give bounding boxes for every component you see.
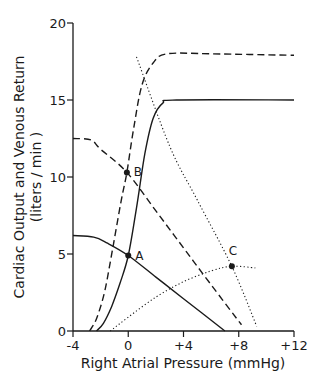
series-line-1 (90, 53, 294, 331)
point-label-b: B (134, 165, 142, 179)
chart: -40+4+8+12 05101520 ABC Right Atrial Pre… (0, 0, 320, 381)
x-tick-label: +4 (174, 338, 193, 353)
y-axis-title-line1: Cardiac Output and Venous Return (11, 56, 27, 299)
plot-lines (73, 53, 294, 331)
point-marker-a (125, 253, 131, 259)
x-tick-label: +12 (280, 338, 307, 353)
y-axis-title-line2: (liters / min ) (28, 132, 44, 222)
point-marker-b (124, 169, 130, 175)
y-tick-label: 15 (49, 93, 66, 108)
y-ticks: 05101520 (49, 16, 73, 339)
point-label-a: A (135, 249, 144, 263)
x-axis-title: Right Atrial Pressure (mmHg) (81, 355, 286, 371)
x-ticks: -40+4+8+12 (67, 331, 308, 353)
x-tick-label: +8 (229, 338, 248, 353)
y-tick-label: 5 (58, 247, 66, 262)
series-line-3 (73, 236, 225, 332)
x-tick-label: 0 (124, 338, 132, 353)
x-tick-label: -4 (67, 338, 80, 353)
y-tick-label: 0 (58, 324, 66, 339)
y-tick-label: 10 (49, 170, 66, 185)
series-line-5 (137, 57, 257, 327)
point-label-c: C (229, 244, 237, 258)
point-marker-c (229, 263, 235, 269)
y-tick-label: 20 (49, 16, 66, 31)
series-line-0 (97, 100, 295, 331)
